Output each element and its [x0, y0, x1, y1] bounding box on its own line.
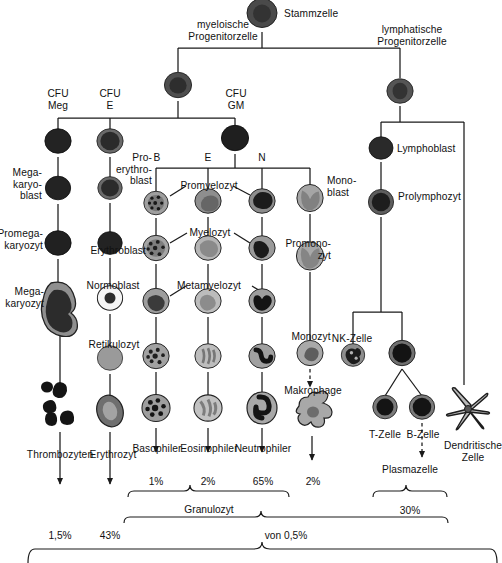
cell-promyelozyt-e — [194, 187, 222, 219]
cell-myelozyt-n — [248, 234, 276, 266]
label-plasmazelle: Plasmazelle — [382, 464, 438, 476]
pct-thrombozyten: 1,5% — [48, 530, 71, 541]
cell-metamyelozyt-e — [194, 287, 222, 319]
label-branch-b: B — [154, 152, 161, 164]
cell-lymphatische-progenitorzelle — [386, 77, 414, 109]
pct-basophiler: 1% — [149, 476, 164, 487]
cell-dendritische-zelle — [445, 385, 491, 437]
label-basophiler: Basophiler — [132, 443, 181, 455]
label-cfu-e: CFU E — [99, 88, 120, 111]
cell-cfu-gm — [221, 124, 250, 157]
label-neutrophiler: Neutrophiler — [235, 443, 292, 455]
label-myelozyt: Myelozyt — [190, 227, 231, 239]
cell-monozyt — [296, 340, 324, 371]
label-cfu-meg: CFU Meg — [47, 88, 68, 111]
cell-myelozyt-e — [194, 234, 222, 266]
label-branch-n: N — [258, 152, 265, 164]
label-prolymphozyt: Prolymphozyt — [398, 191, 461, 203]
label-von-05: von 0,5% — [265, 530, 307, 541]
label-eosinophiler: Eosinophiler — [180, 443, 237, 455]
label-stammzelle: Stammzelle — [284, 8, 338, 20]
label-promyelozyt: Promyelozyt — [180, 180, 237, 192]
label-promegakaryozyt: Promega- karyozyt — [0, 228, 43, 251]
cell-t-zelle — [372, 394, 398, 424]
cell-thrombozyten — [36, 378, 84, 432]
cell-cfu-meg — [44, 127, 72, 159]
label-megakaryoblast: Mega- karyo- blast — [13, 167, 42, 202]
cell-basophiler — [141, 393, 171, 427]
label-lymphoblast: Lymphoblast — [397, 143, 455, 155]
label-proerythroblast: Pro- erythro- blast — [116, 152, 152, 187]
cell-megakaryoblast — [45, 175, 72, 206]
label-erythrozyt: Erythrozyt — [90, 449, 137, 461]
cell-stab-b — [142, 342, 170, 374]
label-granulozyt: Granulozyt — [184, 504, 233, 515]
cell-promyelozyt-n — [248, 187, 276, 219]
cell-b-zelle — [409, 394, 436, 425]
cell-b-cell-progenitor — [388, 339, 416, 371]
label-promonozyt: Promono- zyt — [285, 238, 331, 261]
cell-promyelozyt-b — [143, 190, 169, 220]
label-megakaryozyt: Mega- karyozyt — [5, 286, 44, 309]
label-b-zelle: B-Zelle — [407, 429, 440, 441]
cell-promegakaryozyt — [44, 229, 72, 261]
cell-monoblast — [296, 184, 324, 217]
cell-lymphoblast — [368, 136, 394, 164]
cell-makrophage — [290, 390, 334, 434]
cell-nk-zelle — [341, 343, 366, 372]
pct-eosinophiler: 2% — [201, 476, 216, 487]
label-normoblast: Normoblast — [86, 280, 139, 292]
label-metamyelozyt: Metamyelozyt — [177, 280, 241, 292]
label-myeloische-progenitorzelle: myeloische Progenitorzelle — [188, 19, 257, 42]
label-thrombozyten: Thrombozyten — [27, 449, 93, 461]
label-lymphatische-progenitorzelle: lymphatische Progenitorzelle — [377, 24, 446, 47]
label-erythroblast: Erythroblast — [90, 245, 146, 257]
label-dendritische-zelle: Dendritische Zelle — [444, 440, 502, 463]
cell-metamyelozyt-b — [142, 287, 170, 319]
label-retikulozyt: Retikulozyt — [89, 339, 140, 351]
label-makrophage: Makrophage — [284, 385, 342, 397]
cell-stab-n — [248, 342, 276, 374]
cell-prolymphozyt — [368, 189, 395, 219]
pct-erythrozyt: 43% — [100, 530, 120, 541]
pct-makrophage: 2% — [306, 476, 321, 487]
label-nk-zelle: NK-Zelle — [332, 333, 372, 345]
label-branch-e: E — [205, 152, 212, 164]
label-monozyt: Monozyt — [291, 331, 330, 343]
cell-eosinophiler — [193, 393, 223, 427]
cell-neutrophiler — [246, 391, 278, 429]
label-cfu-gm: CFU GM — [225, 88, 246, 111]
pct-lymphozyten: 30% — [400, 505, 420, 516]
hematopoiesis-diagram: Stammzelle myeloische Progenitorzelle ly… — [0, 0, 502, 563]
cell-myeloische-progenitorzelle — [164, 71, 193, 104]
cell-metamyelozyt-n — [248, 287, 276, 319]
label-monoblast: Mono- blast — [327, 175, 356, 198]
cell-stab-e — [194, 342, 222, 374]
label-t-zelle: T-Zelle — [369, 429, 401, 441]
pct-neutrophiler: 65% — [253, 476, 273, 487]
cell-erythrozyt — [93, 393, 127, 433]
